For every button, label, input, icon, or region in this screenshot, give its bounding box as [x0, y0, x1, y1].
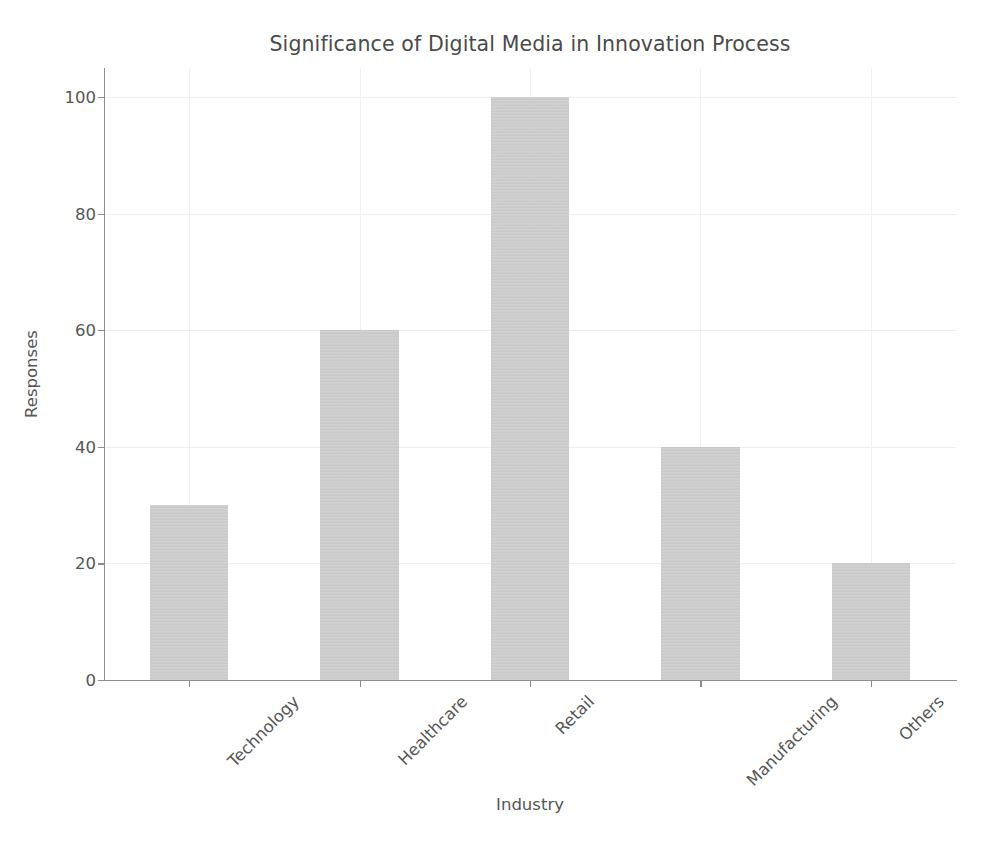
x-tick-mark — [700, 681, 701, 687]
x-axis-tick-marks — [104, 681, 957, 689]
x-tick-label-technology: Technology — [224, 692, 303, 771]
y-axis-label: Responses — [22, 68, 46, 680]
bar-others[interactable] — [832, 563, 910, 680]
y-tick-mark — [98, 563, 104, 564]
chart-title: Significance of Digital Media in Innovat… — [104, 32, 956, 56]
bar-technology[interactable] — [150, 505, 228, 680]
y-tick-mark — [98, 97, 104, 98]
x-tick-mark — [530, 681, 531, 687]
y-tick-mark — [98, 214, 104, 215]
bar-healthcare[interactable] — [320, 330, 398, 680]
bar-manufacturing[interactable] — [661, 447, 739, 680]
x-tick-label-retail: Retail — [552, 692, 598, 738]
chart-figure: Significance of Digital Media in Innovat… — [0, 0, 992, 857]
plot-area — [104, 68, 956, 680]
x-tick-mark — [871, 681, 872, 687]
y-tick-mark — [98, 330, 104, 331]
x-tick-label-manufacturing: Manufacturing — [743, 692, 841, 790]
x-axis-label: Industry — [104, 795, 956, 814]
bar-retail[interactable] — [491, 97, 569, 680]
x-tick-mark — [360, 681, 361, 687]
x-tick-label-healthcare: Healthcare — [394, 692, 471, 769]
x-axis-tick-labels: TechnologyHealthcareRetailManufacturingO… — [104, 692, 957, 802]
y-axis-tick-marks — [104, 68, 105, 680]
y-tick-mark — [98, 447, 104, 448]
x-tick-label-others: Others — [895, 692, 948, 745]
x-tick-mark — [189, 681, 190, 687]
